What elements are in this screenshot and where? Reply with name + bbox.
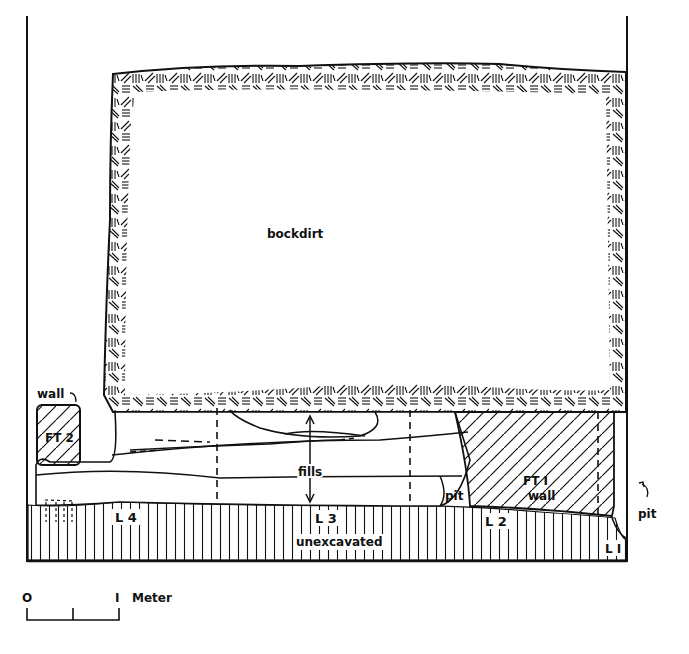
layer-l3-label: L 3 bbox=[315, 511, 337, 526]
ft2-label: FT 2 bbox=[45, 431, 74, 445]
scale-start-label: O bbox=[22, 591, 32, 605]
pit-label-right: pit bbox=[638, 507, 657, 521]
layer-l4-label: L 4 bbox=[115, 510, 137, 525]
wall-label-left: wall bbox=[37, 387, 64, 401]
backdirt-label: bockdirt bbox=[267, 227, 324, 241]
excavation-profile-diagram: FT 2 wall FT I wall b bbox=[0, 0, 689, 654]
ft1-label: FT I bbox=[523, 474, 548, 488]
pit-arrow-icon bbox=[642, 484, 648, 497]
scale-unit-label: Meter bbox=[132, 591, 172, 605]
pit-arrow-head-icon bbox=[639, 482, 644, 487]
layer-l2-label: L 2 bbox=[485, 514, 507, 529]
scale-end-label: I bbox=[115, 591, 119, 605]
pit-label-center: pit bbox=[445, 489, 464, 503]
fills-label: fills bbox=[298, 465, 322, 479]
fills-area bbox=[36, 412, 470, 506]
arrow-icon bbox=[70, 393, 76, 402]
unexcavated-label: unexcavated bbox=[296, 535, 383, 549]
layer-l1-label: L I bbox=[605, 542, 621, 556]
ft1-wall-label: wall bbox=[528, 489, 555, 503]
scale-bar: O I Meter bbox=[22, 591, 172, 620]
backdirt-pile bbox=[104, 63, 626, 412]
